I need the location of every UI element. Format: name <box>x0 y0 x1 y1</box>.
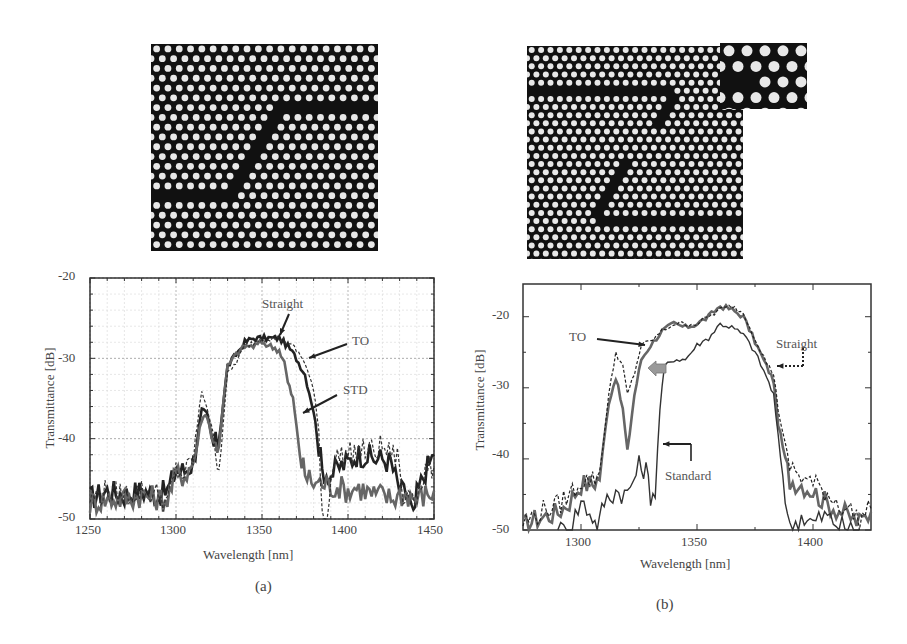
chart-b-xlabel: Wavelength [nm] <box>640 556 730 572</box>
chart-b-ylabel: Transmittance [dB] <box>472 340 488 460</box>
charts-canvas <box>0 0 907 644</box>
chart-a-xtick-0: 1250 <box>75 522 101 538</box>
chart-b-ytick-3: -50 <box>492 521 509 537</box>
chart-b-annotation-straight: Straight <box>776 336 817 352</box>
chart-a-xtick-1: 1300 <box>160 522 186 538</box>
chart-a-annotation-to: TO <box>352 333 369 349</box>
chart-b-xtick-2: 1400 <box>797 534 823 550</box>
chart-a-ytick-1: -30 <box>58 350 75 366</box>
series-standard-line <box>558 323 860 530</box>
chart-b-ticks <box>523 284 871 530</box>
chart-b-ytick-2: -40 <box>492 446 509 462</box>
chart-b-annotation-standard: Standard <box>665 468 711 484</box>
chart-a-annotation-straight: Straight <box>262 296 303 312</box>
chart-b-xtick-1: 1350 <box>681 534 707 550</box>
chart-b-xtick-0: 1300 <box>565 534 591 550</box>
panel-a-label: (a) <box>255 578 272 595</box>
chart-a-ytick-3: -50 <box>58 509 75 525</box>
chart-a-xtick-4: 1450 <box>417 522 443 538</box>
chart-b-ytick-1: -30 <box>492 377 509 393</box>
chart-a-xtick-2: 1350 <box>246 522 272 538</box>
chart-b-annotation-to: TO <box>569 329 586 345</box>
chart-b-ytick-0: -20 <box>492 307 509 323</box>
chart-a-ylabel: Transmittance [dB] <box>42 338 58 458</box>
chart-a-ytick-0: -20 <box>58 268 75 284</box>
panel-b-label: (b) <box>656 596 674 613</box>
chart-a-xlabel: Wavelength [nm] <box>203 547 293 563</box>
chart-a-annotation-std: STD <box>343 382 368 398</box>
chart-a-xtick-3: 1400 <box>331 522 357 538</box>
chart-b-frame <box>523 284 871 530</box>
chart-a-ytick-2: -40 <box>58 430 75 446</box>
